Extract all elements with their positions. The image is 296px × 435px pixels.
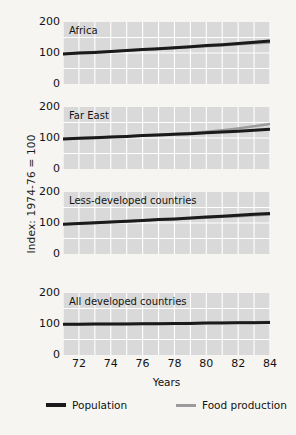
legend-item-food-production: Food production xyxy=(176,399,287,411)
panel-title: All developed countries xyxy=(69,296,187,307)
chart-panel: Africa xyxy=(63,22,270,84)
x-tick-label: 74 xyxy=(104,357,118,370)
chart-panel: Far East xyxy=(63,107,270,169)
panel-title: Far East xyxy=(69,110,109,121)
x-tick-label: 84 xyxy=(263,357,277,370)
y-tick-label: 100 xyxy=(26,217,60,228)
x-tick-label: 80 xyxy=(199,357,213,370)
y-tick-label: 0 xyxy=(26,248,60,259)
y-axis-ticks: 2001000 xyxy=(22,107,60,169)
y-tick-label: 200 xyxy=(26,101,60,112)
x-tick-label: 76 xyxy=(136,357,150,370)
panel-title: Less-developed countries xyxy=(69,195,197,206)
x-tick-label: 78 xyxy=(167,357,181,370)
y-tick-label: 200 xyxy=(26,287,60,298)
y-tick-label: 100 xyxy=(26,132,60,143)
y-axis-ticks: 2001000 xyxy=(22,293,60,355)
y-tick-label: 0 xyxy=(26,163,60,174)
legend-swatch-population-icon xyxy=(46,403,66,407)
y-tick-label: 200 xyxy=(26,186,60,197)
chart-legend: Population Food production xyxy=(46,399,296,417)
x-axis-label: Years xyxy=(63,376,270,388)
legend-label-food-production: Food production xyxy=(202,399,287,411)
y-tick-label: 0 xyxy=(26,349,60,360)
x-tick-label: 72 xyxy=(72,357,86,370)
x-axis-ticks: 72747678808284 xyxy=(63,357,270,373)
series-line xyxy=(63,41,270,54)
chart-figure: Index: 1974-76 = 100 Africa2001000Far Ea… xyxy=(0,0,296,435)
y-tick-label: 100 xyxy=(26,47,60,58)
panel-title: Africa xyxy=(69,25,98,36)
legend-item-population: Population xyxy=(46,399,127,411)
y-tick-label: 200 xyxy=(26,16,60,27)
chart-panel: Less-developed countries xyxy=(63,192,270,254)
x-tick-label: 82 xyxy=(231,357,245,370)
legend-swatch-food-production-icon xyxy=(176,404,196,407)
y-axis-ticks: 2001000 xyxy=(22,192,60,254)
legend-label-population: Population xyxy=(72,399,127,411)
chart-panel: All developed countries xyxy=(63,293,270,355)
y-tick-label: 0 xyxy=(26,78,60,89)
series-line xyxy=(63,322,270,324)
y-tick-label: 100 xyxy=(26,318,60,329)
y-axis-ticks: 2001000 xyxy=(22,22,60,84)
